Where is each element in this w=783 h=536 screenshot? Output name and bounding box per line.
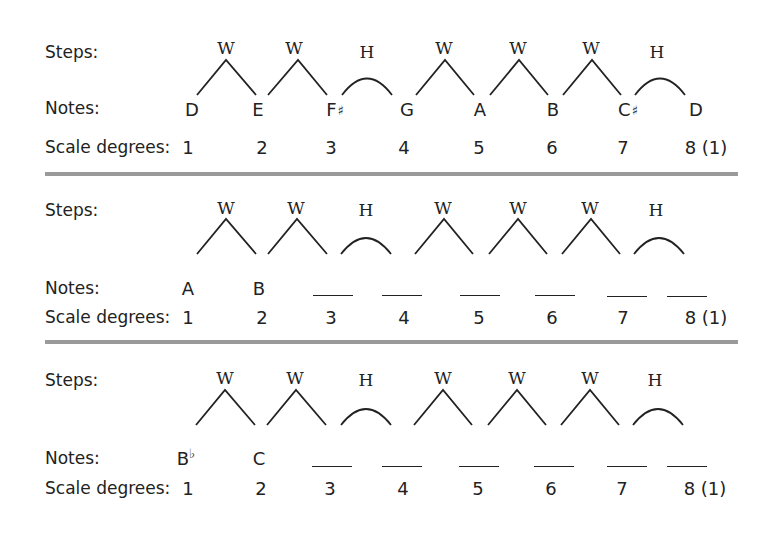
whole-step-icon (196, 390, 255, 425)
whole-step-icon (267, 390, 326, 425)
degree-7: 7 (616, 480, 627, 498)
half-step-icon (633, 409, 683, 425)
note-blank-6[interactable] (534, 466, 574, 467)
degree-3: 3 (324, 480, 335, 498)
degree-4: 4 (397, 480, 408, 498)
note-2: C (253, 450, 266, 468)
notes-label: Notes: (45, 450, 100, 467)
whole-step-icon (488, 390, 546, 425)
note-blank-5[interactable] (459, 466, 499, 467)
degree-8: 8 (1) (684, 480, 727, 498)
step-shapes (0, 0, 783, 536)
whole-step-icon (561, 390, 619, 425)
degree-6: 6 (545, 480, 556, 498)
degree-1: 1 (182, 480, 193, 498)
note-blank-7[interactable] (607, 466, 647, 467)
scale-section-3: Steps: W W H W W W H Notes: B♭ C Scale d… (0, 0, 783, 536)
flat-icon: ♭ (189, 446, 195, 461)
whole-step-icon (414, 390, 472, 425)
note-blank-8[interactable] (667, 466, 707, 467)
scale-degrees-label: Scale degrees: (45, 480, 170, 497)
degree-2: 2 (255, 480, 266, 498)
note-blank-3[interactable] (312, 466, 352, 467)
note-blank-4[interactable] (382, 466, 422, 467)
note-1: B♭ (177, 450, 196, 468)
degree-5: 5 (472, 480, 483, 498)
half-step-icon (341, 409, 391, 425)
